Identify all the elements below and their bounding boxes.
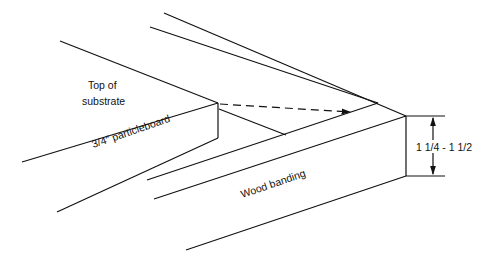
label-top-of-substrate-1: Top of — [88, 79, 117, 91]
diagram-drawing — [0, 0, 496, 265]
banding-front-bottom — [186, 176, 406, 250]
substrate-top-edge — [60, 41, 218, 103]
banding-inner-top-edge — [150, 27, 378, 103]
dashed-arrow — [220, 104, 350, 112]
label-top-of-substrate-2: substrate — [82, 95, 125, 107]
particleboard-lower-edge — [57, 138, 218, 212]
substrate-side-edge — [219, 109, 286, 135]
label-dimension: 1 1/4 - 1 1/2 — [415, 141, 473, 153]
